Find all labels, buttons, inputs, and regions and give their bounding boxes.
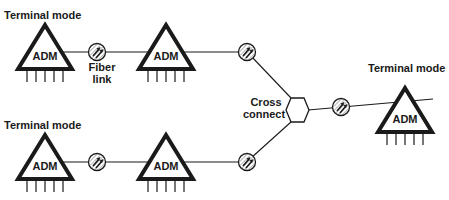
amplifier-icon — [89, 44, 106, 61]
amplifier-icon — [333, 99, 350, 116]
adm-bottom-mid: ADM — [139, 135, 193, 192]
amplifier-icon — [239, 44, 256, 61]
network-diagram: ADM ADM ADM ADM ADM Terminal mode Termin… — [0, 0, 449, 200]
fiber-link-label-line2: link — [93, 73, 113, 85]
cross-connect-label-line2: connect — [243, 108, 286, 120]
adm-right: ADM — [378, 88, 432, 145]
adm-top-mid: ADM — [139, 25, 193, 82]
fiber-link-label-line1: Fiber — [89, 61, 117, 73]
adm-label: ADM — [32, 160, 57, 172]
amplifier-icon — [239, 154, 256, 171]
adm-label: ADM — [32, 50, 57, 62]
adm-label: ADM — [392, 113, 417, 125]
adm-label: ADM — [153, 50, 178, 62]
adm-label: ADM — [153, 160, 178, 172]
terminal-mode-label-bottom-left: Terminal mode — [4, 119, 81, 131]
terminal-mode-label-top-left: Terminal mode — [4, 9, 81, 21]
adm-bottom-left: ADM — [18, 135, 72, 192]
amplifier-icon — [89, 154, 106, 171]
cross-connect-hexagon — [286, 98, 309, 122]
cross-connect-label-line1: Cross — [250, 96, 281, 108]
terminal-mode-label-right: Terminal mode — [368, 62, 445, 74]
adm-top-left: ADM — [18, 25, 72, 82]
